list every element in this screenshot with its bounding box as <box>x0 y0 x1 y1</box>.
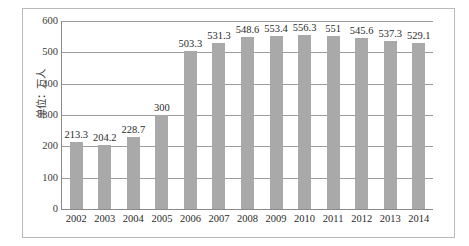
y-tick-label: 0 <box>24 203 58 214</box>
chart-figure: 单位：万人 0100200300400500600 213.32002204.2… <box>0 0 469 246</box>
y-tick-label: 500 <box>24 46 58 57</box>
y-tick-label: 300 <box>24 109 58 120</box>
bar-value-label: 300 <box>142 102 182 114</box>
y-tick-label: 400 <box>24 78 58 89</box>
y-tick-label: 200 <box>24 140 58 151</box>
y-tick-label: 100 <box>24 172 58 183</box>
bar-value-label: 529.1 <box>399 30 439 42</box>
bar-value-label: 228.7 <box>113 124 153 136</box>
x-axis-tick-labels: 213.32002204.22003228.720043002005503.32… <box>62 0 433 246</box>
y-axis-tick-labels: 0100200300400500600 <box>20 21 58 209</box>
y-tick-label: 600 <box>24 15 58 26</box>
x-tick-label: 2014 <box>399 213 439 225</box>
